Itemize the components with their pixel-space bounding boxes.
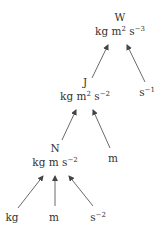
arrow-s1-to-w bbox=[127, 45, 145, 82]
watt-symbol: W bbox=[115, 11, 126, 23]
arrow-j-to-w bbox=[92, 45, 108, 78]
newton-exp-s: −2 bbox=[67, 156, 77, 164]
arrow-s2-to-n bbox=[69, 176, 93, 206]
inverse-second-exp: −1 bbox=[145, 86, 155, 94]
inverse-second-sq-exp: −2 bbox=[96, 211, 106, 219]
node-watt-units: kg m2 s−3 bbox=[95, 25, 145, 37]
node-metre-bottom: m bbox=[49, 211, 59, 223]
node-newton-units: kg m s−2 bbox=[32, 156, 77, 168]
joule-exp-s: −2 bbox=[100, 90, 110, 98]
node-joule-units: kg m2 s−2 bbox=[60, 90, 110, 102]
node-watt-symbol: W bbox=[115, 11, 126, 23]
node-inverse-second: s−1 bbox=[139, 86, 155, 98]
arrow-n-to-j bbox=[62, 110, 76, 140]
node-inverse-second-sq: s−2 bbox=[90, 211, 106, 223]
arrow-kg-to-n bbox=[18, 176, 43, 208]
node-joule-symbol: J bbox=[83, 76, 87, 88]
node-metre-mid: m bbox=[108, 152, 118, 164]
newton-units-base: kg m s bbox=[32, 156, 67, 168]
node-kilogram: kg bbox=[5, 211, 18, 223]
newton-symbol: N bbox=[50, 142, 59, 154]
node-newton-symbol: N bbox=[50, 142, 59, 154]
arrow-m-to-j bbox=[93, 110, 110, 148]
joule-units-base: kg m bbox=[60, 90, 86, 102]
joule-units-s: s bbox=[91, 90, 100, 102]
watt-units-s: s bbox=[126, 25, 135, 37]
watt-units-base: kg m bbox=[95, 25, 121, 37]
metre-mid-label: m bbox=[108, 152, 118, 164]
joule-symbol: J bbox=[83, 76, 87, 88]
kilogram-label: kg bbox=[5, 211, 18, 223]
watt-exp-s: −3 bbox=[135, 25, 145, 33]
metre-bottom-label: m bbox=[49, 211, 59, 223]
